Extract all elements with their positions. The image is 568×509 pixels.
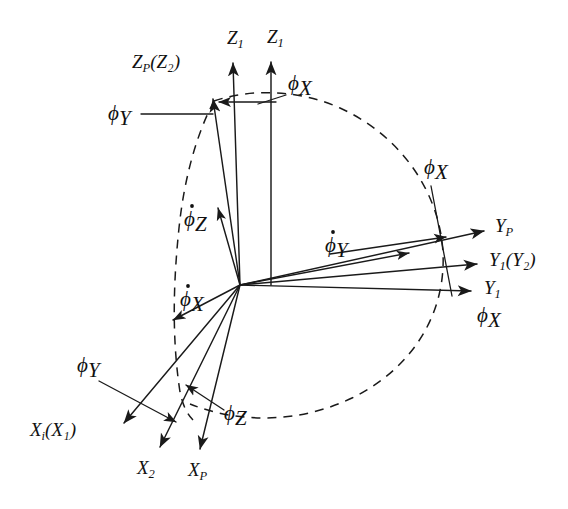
- label-z-p-paren: (Z₂): [150, 51, 180, 73]
- phi-x-top-symbol: ϕ: [288, 71, 299, 95]
- label-phi-dot-z: ϕZ: [184, 204, 207, 236]
- phi-dot-y-rate-vector: [240, 253, 409, 285]
- label-x-i-x-1: Xi(X₁): [29, 419, 76, 443]
- phi-dot-y-subscript: Y: [336, 238, 350, 262]
- phi-x-right-lower-symbol: ϕ: [477, 303, 488, 327]
- phi-y-bottom-symbol: ϕ: [77, 353, 88, 377]
- phi-dot-z-text: ϕZ: [184, 207, 207, 236]
- dashed-reference-arcs: [174, 93, 443, 420]
- label-phi-dot-y: ϕY: [325, 230, 350, 262]
- phi-y-top-subscript: Y: [119, 106, 133, 130]
- inclined-ellipse-arc: [174, 101, 214, 420]
- phi-y-bottom-subscript: Y: [88, 358, 102, 382]
- y-1-axis-vector: [240, 285, 471, 291]
- phi-dot-z-subscript: Z: [195, 212, 207, 236]
- label-z-1-left-base: Z: [227, 27, 238, 48]
- phi-x-right-upper-symbol: ϕ: [424, 155, 435, 179]
- phi-dot-x-subscript: X: [190, 292, 205, 316]
- phi-x-right-upper-subscript: X: [434, 160, 449, 184]
- label-z-1-left-subscript: 1: [238, 37, 244, 51]
- label-z-1-right-subscript: 1: [278, 36, 284, 50]
- label-phi-dot-x: ϕX: [180, 284, 205, 316]
- axis-labels: ZP(Z₂) Z1 Z1 YP Y1(Y₂) Y1 Xi(X₁) X2: [29, 26, 536, 483]
- label-z-1-right-base: Z: [267, 26, 278, 47]
- label-phi-y-top-left: ϕY: [108, 101, 133, 130]
- phi-dot-z-symbol: ϕ: [184, 207, 195, 231]
- phi-z-bottom-leader: [186, 385, 224, 410]
- label-y-1-outer: Y1: [484, 277, 501, 301]
- phi-y-top-symbol: ϕ: [108, 101, 119, 125]
- label-y-1-y-2: Y1(Y₂): [489, 249, 536, 273]
- phi-x-top-subscript: X: [298, 76, 313, 100]
- angle-labels: ϕY ϕX ϕX ϕX ϕY ϕZ: [77, 71, 502, 430]
- reference-circle-arc: [190, 93, 443, 418]
- label-x-2: X2: [136, 457, 155, 481]
- y-p-axis-vector: [240, 231, 484, 285]
- phi-dot-y-symbol: ϕ: [325, 233, 336, 257]
- label-z-p-base: Z: [132, 51, 143, 72]
- label-z-1-right: Z1: [267, 26, 284, 50]
- label-z-p-subscript: P: [142, 61, 151, 75]
- label-phi-x-right-upper: ϕX: [424, 155, 449, 184]
- label-z-1-left: Z1: [227, 27, 244, 51]
- label-z-p-z-2: ZP(Z₂): [132, 51, 180, 75]
- label-y-p: YP: [495, 215, 514, 239]
- rate-labels: ϕZ ϕY ϕX: [180, 204, 350, 316]
- label-x-2-subscript: 2: [149, 467, 155, 481]
- phi-dot-y-text: ϕY: [325, 233, 350, 262]
- z-axis-vectors: [213, 62, 271, 285]
- label-x-p-subscript: P: [199, 469, 208, 483]
- z-1-left-axis-vector: [233, 63, 240, 285]
- label-x-i-paren: (X₁): [45, 419, 76, 441]
- phi-z-bottom-symbol: ϕ: [224, 401, 235, 425]
- phi-dot-x-text: ϕX: [180, 287, 205, 316]
- label-phi-x-right-lower: ϕX: [477, 303, 502, 332]
- label-y-p-subscript: P: [505, 225, 514, 239]
- angle-leader-lines: [99, 95, 452, 422]
- diagram-canvas: ZP(Z₂) Z1 Z1 YP Y1(Y₂) Y1 Xi(X₁) X2: [0, 0, 568, 509]
- y-axis-vectors: [240, 231, 484, 291]
- label-phi-y-bottom-left: ϕY: [77, 353, 102, 382]
- phi-dot-x-symbol: ϕ: [180, 287, 191, 311]
- phi-y-bottom-leader: [99, 381, 176, 422]
- phi-dot-z-rate-vector: [218, 208, 240, 285]
- label-y-1-paren: (Y₂): [506, 249, 536, 271]
- label-phi-x-top-right: ϕX: [288, 71, 313, 100]
- coordinate-frame-diagram: ZP(Z₂) Z1 Z1 YP Y1(Y₂) Y1 Xi(X₁) X2: [0, 0, 568, 509]
- phi-z-bottom-subscript: Z: [235, 406, 247, 430]
- label-x-p: XP: [187, 459, 208, 483]
- z-p-axis-vector: [213, 99, 240, 285]
- phi-x-right-lower-subscript: X: [487, 308, 502, 332]
- label-phi-z-bottom: ϕZ: [224, 401, 247, 430]
- label-y-1-outer-subscript: 1: [495, 287, 501, 301]
